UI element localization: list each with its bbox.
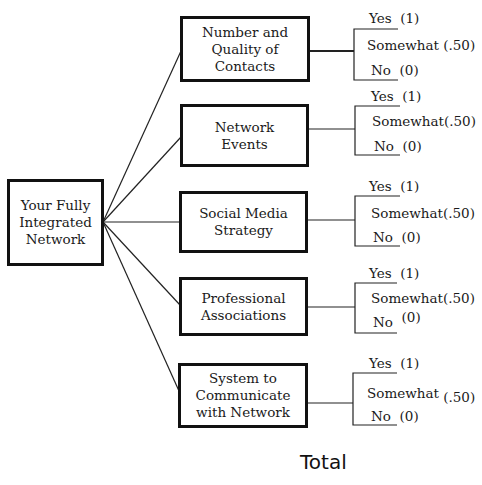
option-no: No (0) xyxy=(371,62,419,78)
root-label: Your Fully Integrated Network xyxy=(19,197,92,248)
category-node-associations: Professional Associations xyxy=(179,277,308,336)
category-label: Professional Associations xyxy=(201,290,286,324)
category-label: Network Events xyxy=(215,119,275,153)
option-yes: Yes (1) xyxy=(369,10,419,26)
option-yes: Yes (1) xyxy=(369,178,419,194)
option-yes: Yes (1) xyxy=(369,265,419,281)
option-no: No (0) xyxy=(374,138,422,154)
category-label: Number and Quality of Contacts xyxy=(202,24,288,75)
root-node: Your Fully Integrated Network xyxy=(7,179,104,266)
option-somewhat: Somewhat(.50) xyxy=(371,290,475,306)
category-node-communication: System to Communicate with Network xyxy=(178,363,308,428)
category-node-events: Network Events xyxy=(180,104,309,167)
category-node-contacts: Number and Quality of Contacts xyxy=(180,16,310,82)
category-label: System to Communicate with Network xyxy=(196,370,291,421)
option-somewhat: Somewhat(.50) xyxy=(371,205,475,221)
option-somewhat: Somewhat (.50) xyxy=(367,37,475,53)
total-label: Total xyxy=(300,450,347,474)
option-no: No (0) xyxy=(371,408,419,424)
option-yes: Yes (1) xyxy=(371,88,421,104)
option-no: No (0) xyxy=(373,314,421,330)
option-somewhat: Somewhat (.50) xyxy=(367,385,475,401)
option-yes: Yes (1) xyxy=(369,355,419,371)
category-label: Social Media Strategy xyxy=(199,205,288,239)
option-no: No (0) xyxy=(373,229,421,245)
option-somewhat: Somewhat(.50) xyxy=(372,113,476,129)
category-node-social-media: Social Media Strategy xyxy=(179,191,308,253)
